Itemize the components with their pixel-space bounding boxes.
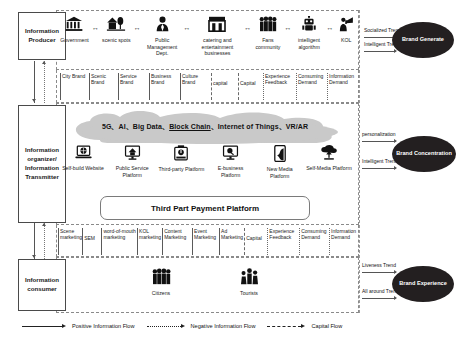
actor-kol[interactable]: KOL: [335, 16, 359, 44]
arrow-bidirectional: ↔: [183, 23, 192, 33]
actor-label: intelligent algorithm: [293, 37, 326, 50]
actor-scenic-spots[interactable]: scenic spots: [100, 16, 133, 44]
role-box-transmitter: Information organizer/ Information Trans…: [18, 105, 66, 223]
channel-consuming-demand[interactable]: Consuming Demand: [296, 73, 327, 100]
actor-label: Government: [58, 37, 91, 44]
legend-label: Capital Flow: [311, 323, 342, 329]
channel-label: Business Brand: [151, 73, 171, 85]
channel-consuming-demand-lower[interactable]: Consuming Demand: [299, 228, 329, 255]
arrow-head-right: [301, 324, 305, 328]
channel-content-marketing[interactable]: Content Marketing: [162, 228, 192, 255]
channel-business-brand[interactable]: Business Brand: [149, 73, 180, 100]
legend-line-solid: [22, 326, 62, 327]
platform-label: E-business Platform: [208, 165, 254, 179]
tourist-group-icon: [228, 268, 270, 289]
channel-information-demand[interactable]: Information Demand: [327, 73, 357, 100]
platform-third-party[interactable]: Third-party Platform: [158, 145, 204, 193]
cloud-text-part-3: 、Internet of Things、VR/AR: [211, 123, 308, 130]
channel-capital-lower[interactable]: capital: [211, 73, 238, 100]
channel-label: Service Brand: [120, 73, 137, 85]
arrow-head-right: [394, 166, 397, 170]
channel-city-brand[interactable]: City Brand: [60, 73, 89, 100]
platform-label: Self-Media Platform: [306, 165, 352, 172]
trend-label-personalization: personalization: [362, 131, 396, 137]
channel-experience-feedback-lower[interactable]: Experience Feedback: [267, 228, 299, 255]
connector-transmitter-up: [44, 61, 45, 103]
channel-label: Ad Marketing: [221, 228, 243, 240]
channel-capital-upper[interactable]: Capital: [238, 73, 263, 100]
arrow-line-liveness: [362, 272, 396, 273]
cloud-text-blockchain: Block Chain: [169, 123, 211, 130]
store-icon: [192, 16, 244, 36]
park-icon: [100, 16, 133, 36]
channel-scene-marketing[interactable]: Scene marketing: [58, 228, 82, 255]
role-label-consumer: Information consumer: [21, 276, 63, 294]
channel-label: capital: [213, 80, 227, 86]
consumer-actor-row: Citizens Tourists: [140, 268, 270, 308]
actor-label: Citizens: [140, 290, 182, 297]
outcome-brand-experience[interactable]: Brand Experience: [392, 266, 454, 302]
channel-kol-marketing[interactable]: KOL marketing: [137, 228, 162, 255]
platform-new-media[interactable]: New Media Platform: [257, 145, 303, 193]
actor-label: Tourists: [228, 290, 270, 297]
megaphone-person-icon: [335, 16, 359, 36]
arrow-head-down: [32, 99, 36, 102]
platform-label: New Media Platform: [257, 166, 303, 180]
channel-label: Capital: [246, 235, 262, 241]
channel-culture-brand[interactable]: Culture Brand: [180, 73, 211, 100]
channel-label: Content Marketing: [164, 228, 186, 240]
arrow-head-down: [32, 255, 36, 258]
bank-icon: [58, 16, 91, 36]
arrow-head-right: [394, 139, 397, 143]
channel-capital[interactable]: Capital: [244, 228, 267, 255]
platform-e-business[interactable]: E-business Platform: [208, 145, 254, 193]
outcome-label: Brand Experience: [399, 280, 447, 288]
cloud-upload-icon: [306, 145, 352, 164]
channel-service-brand[interactable]: Service Brand: [118, 73, 149, 100]
channel-experience-feedback[interactable]: Experience Feedback: [263, 73, 296, 100]
channel-label: Culture Brand: [182, 73, 198, 85]
channel-label: Scenic Brand: [91, 73, 106, 85]
robot-icon: [293, 16, 326, 36]
platform-self-media[interactable]: Self-Media Platform: [306, 145, 352, 193]
connector-transmitter-down: [34, 223, 35, 259]
legend-label: Negative Information Flow: [191, 323, 256, 329]
laptop-globe-icon: [60, 145, 106, 164]
channel-ad-marketing[interactable]: Ad Marketing: [219, 228, 244, 255]
actor-citizens[interactable]: Citizens: [140, 268, 182, 308]
actor-government[interactable]: Government: [58, 16, 91, 44]
upper-channel-row: City Brand Scenic Brand Service Brand Bu…: [60, 73, 357, 100]
arrow-line-all-around: [362, 298, 396, 299]
channel-label: word-of-mouth marketing: [103, 228, 135, 240]
platform-self-build-website[interactable]: Self-build Website: [60, 145, 106, 193]
monitor-search-icon: [208, 145, 254, 164]
producer-actor-row: Government ↔ scenic spots ↔ Public Manag…: [58, 16, 358, 64]
channel-label: Scene marketing: [60, 228, 82, 240]
actor-public-management-dept[interactable]: Public Management Dept.: [142, 16, 183, 57]
channel-word-of-mouth-marketing[interactable]: word-of-mouth marketing: [101, 228, 137, 255]
actor-label: scenic spots: [100, 37, 133, 44]
channel-label: SEM: [84, 235, 95, 241]
actor-catering-entertainment[interactable]: catering and entertainment businesses: [192, 16, 244, 57]
channel-event-marketing[interactable]: Event Marketing: [192, 228, 219, 255]
platform-label: Self-build Website: [60, 165, 106, 172]
channel-sem[interactable]: SEM: [82, 228, 101, 255]
outcome-brand-generate[interactable]: Brand Generate: [392, 22, 454, 58]
channel-information-demand-lower[interactable]: Information Demand: [329, 228, 358, 255]
actor-label: KOL: [335, 37, 359, 44]
cloud-text-part-1: 5G、AI、Big Data、: [102, 123, 169, 130]
actor-fans-community[interactable]: Fans community: [252, 16, 283, 50]
channel-scenic-brand[interactable]: Scenic Brand: [89, 73, 118, 100]
arrow-bidirectional: ↔: [243, 23, 252, 33]
outcome-brand-concentration[interactable]: Brand Concentration: [392, 136, 456, 172]
arrow-head-up: [42, 61, 46, 64]
people-group-icon: [252, 16, 283, 36]
platform-public-service[interactable]: Public Service Platform: [109, 145, 155, 193]
actor-tourists[interactable]: Tourists: [228, 268, 270, 308]
legend-label: Positive Information Flow: [72, 323, 135, 329]
arrow-bidirectional: ↔: [91, 23, 100, 33]
legend: Positive Information Flow Negative Infor…: [22, 319, 362, 333]
third-part-payment-platform[interactable]: Third Part Payment Platform: [100, 196, 310, 220]
actor-intelligent-algorithm[interactable]: intelligent algorithm: [293, 16, 326, 50]
outcome-label: Brand Concentration: [396, 150, 452, 158]
